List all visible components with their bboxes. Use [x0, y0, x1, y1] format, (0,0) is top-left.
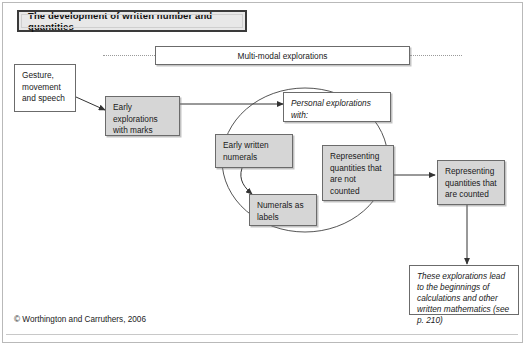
node-gesture-label: Gesture, movement and speech	[22, 70, 65, 103]
diagram-page: The development of written number and qu…	[0, 0, 528, 350]
arrow-gesture-to-early-explorations	[76, 97, 105, 110]
node-personal-explorations-label: Personal explorations with:	[291, 98, 371, 120]
node-early-explorations-with-marks: Early explorations with marks	[105, 96, 180, 136]
node-numerals-as-labels-label: Numerals as labels	[257, 200, 304, 222]
node-early-written-numerals-label: Early written numerals	[223, 140, 269, 162]
copyright-notice: © Worthington and Carruthers, 2006	[14, 315, 146, 324]
node-numerals-as-labels: Numerals as labels	[249, 194, 317, 226]
node-representing-not-counted-label: Representing quantities that are not cou…	[330, 151, 382, 196]
node-early-written-numerals: Early written numerals	[215, 134, 293, 168]
node-personal-explorations: Personal explorations with:	[283, 92, 391, 122]
arrow-numerals-to-labels	[241, 168, 252, 194]
page-title: The development of written number and qu…	[17, 10, 247, 32]
dotted-connector-right	[410, 55, 462, 56]
node-multi-modal-explorations: Multi-modal explorations	[155, 46, 410, 65]
node-multi-modal-label: Multi-modal explorations	[238, 51, 328, 61]
node-representing-not-counted: Representing quantities that are not cou…	[322, 145, 394, 201]
dotted-connector-left	[103, 55, 155, 56]
node-early-explorations-label: Early explorations with marks	[113, 102, 158, 135]
node-outcome-explorations-lead-to: These explorations lead to the beginning…	[409, 265, 519, 315]
node-representing-counted-label: Representing quantities that are counted	[445, 166, 497, 199]
footer-divider	[6, 334, 518, 335]
node-representing-counted: Representing quantities that are counted	[437, 160, 505, 205]
node-gesture-movement-speech: Gesture, movement and speech	[14, 64, 76, 112]
page-title-text: The development of written number and qu…	[28, 10, 245, 32]
copyright-text: © Worthington and Carruthers, 2006	[14, 315, 146, 324]
node-outcome-label: These explorations lead to the beginning…	[417, 271, 509, 325]
